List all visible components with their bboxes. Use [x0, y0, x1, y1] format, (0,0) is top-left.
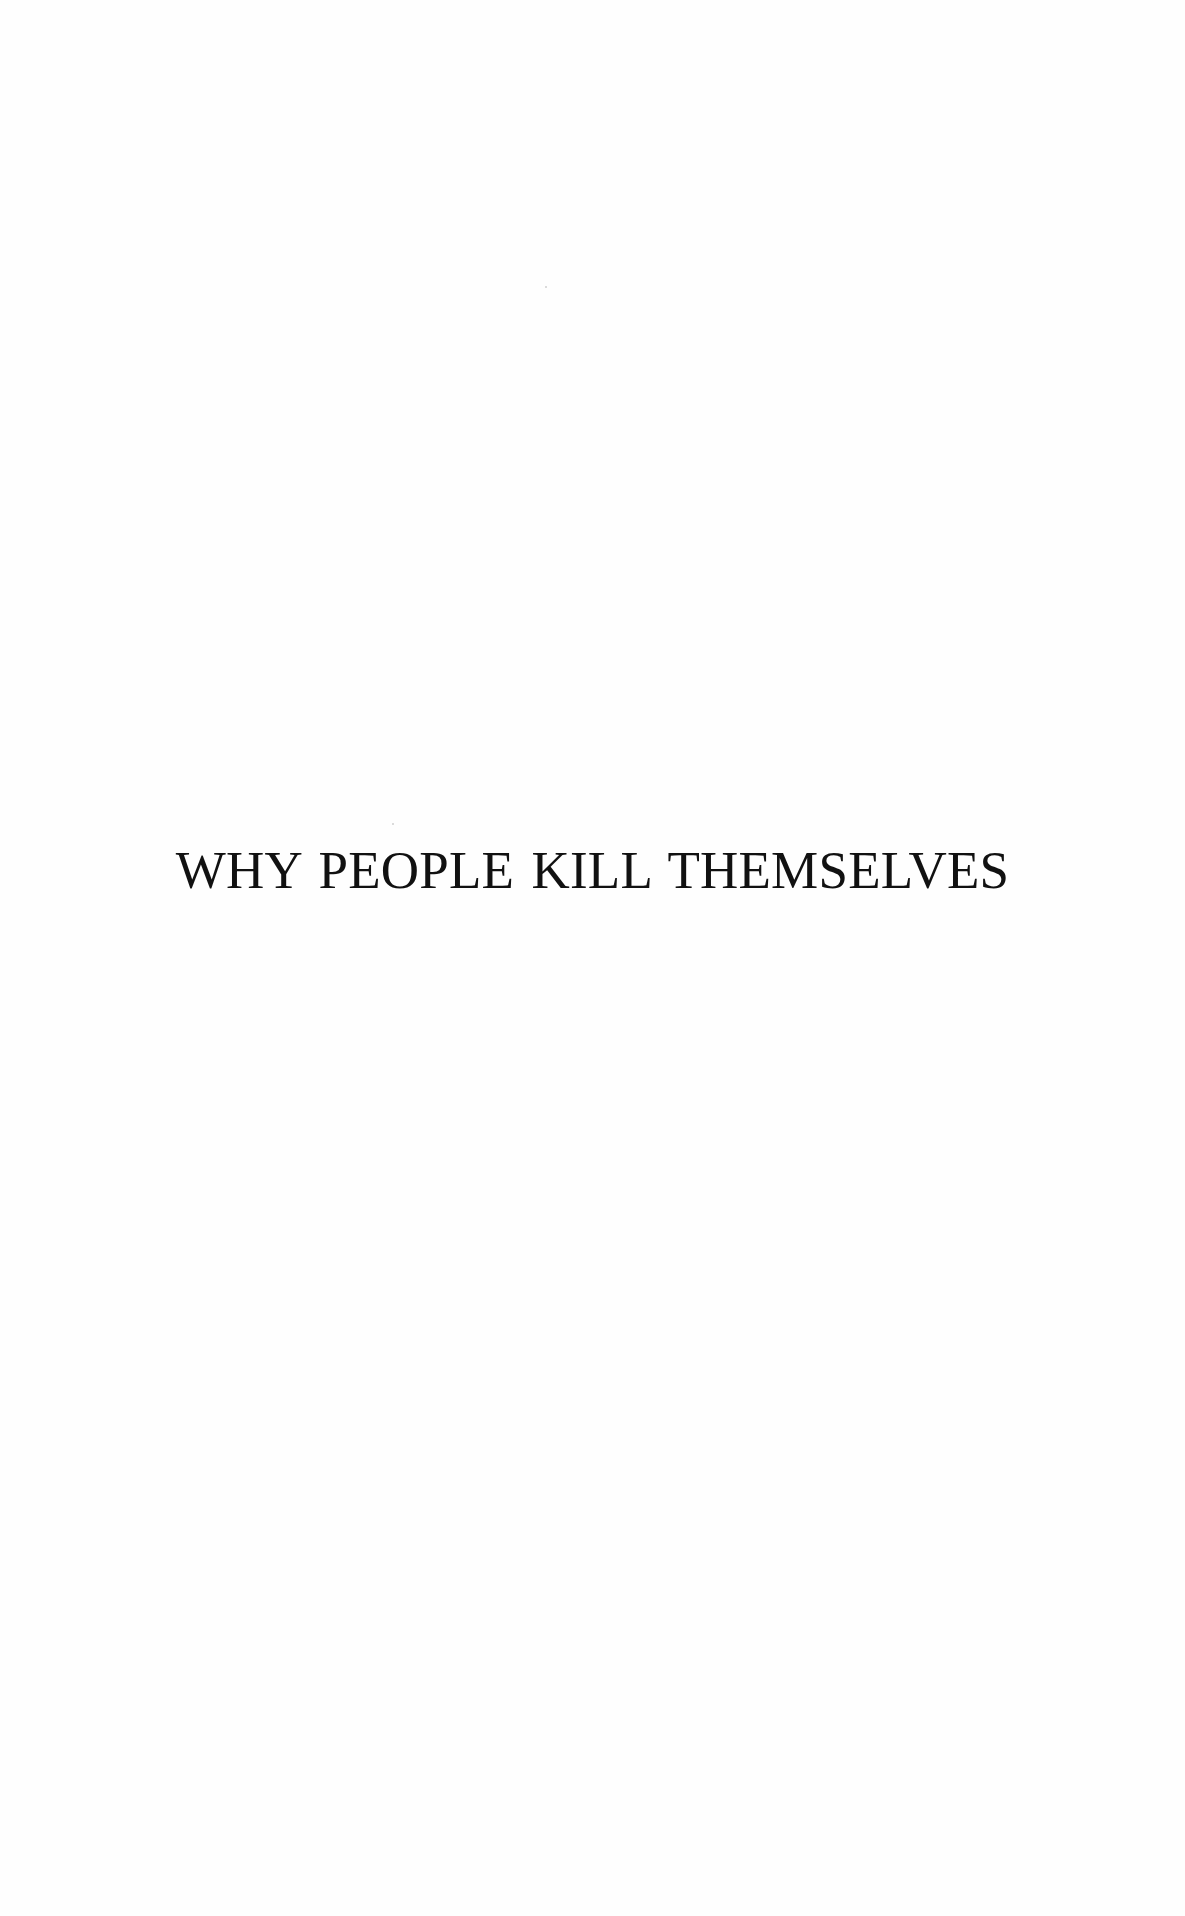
- scan-speck: [545, 286, 547, 288]
- half-title: WHY PEOPLE KILL THEMSELVES: [0, 838, 1185, 902]
- book-page: WHY PEOPLE KILL THEMSELVES: [0, 0, 1185, 1916]
- scan-speck: [392, 823, 394, 825]
